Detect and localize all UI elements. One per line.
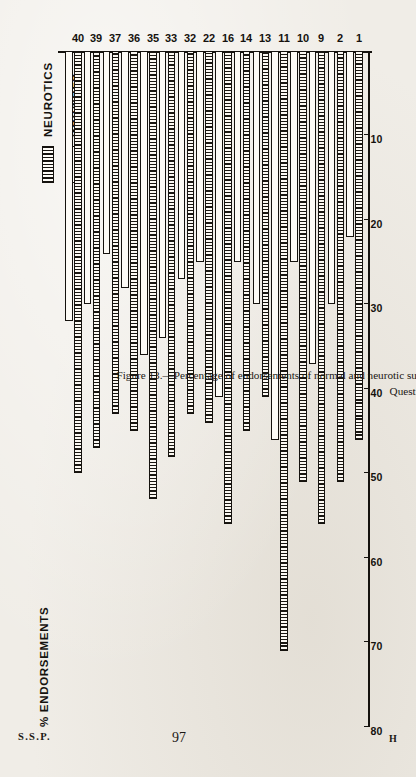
axis-tick — [364, 725, 369, 726]
bar-neurotics — [224, 51, 232, 524]
legend-swatch-neurotics — [42, 146, 54, 183]
bar-normals — [328, 51, 336, 305]
bar-neurotics — [74, 51, 82, 474]
bar-normals — [196, 51, 204, 262]
bar-normals — [140, 51, 148, 355]
axis-tick-label: 50 — [371, 471, 383, 483]
bar-normals — [346, 51, 354, 237]
axis-tick-label: 30 — [371, 302, 383, 314]
bar-neurotics — [280, 51, 288, 651]
category-label: 1 — [350, 32, 368, 44]
bar-neurotics — [112, 51, 120, 414]
running-head: S.S.P. — [18, 731, 51, 742]
bar-normals — [121, 51, 129, 288]
axis-tick-label: 20 — [371, 217, 383, 229]
page-number: 97 — [172, 730, 186, 746]
category-label: 14 — [237, 32, 255, 44]
bar-normals — [309, 51, 317, 364]
bar-neurotics — [262, 51, 270, 397]
bar-normals — [65, 51, 73, 321]
category-label: 10 — [294, 32, 312, 44]
axis-tick-label: 70 — [371, 640, 383, 652]
bar-normals — [290, 51, 298, 262]
figure-plate: % ENDORSEMENTS NEUROTICS NORMALS 1291011… — [20, 39, 396, 739]
axis-tick — [364, 472, 369, 473]
axis-tick — [364, 303, 369, 304]
bar-normals — [234, 51, 242, 262]
axis-title: % ENDORSEMENTS — [38, 606, 50, 726]
category-label: 2 — [331, 32, 349, 44]
bar-neurotics — [299, 51, 307, 482]
category-label: 16 — [219, 32, 237, 44]
category-label: 33 — [162, 32, 180, 44]
category-label: 22 — [200, 32, 218, 44]
axis-tick — [364, 134, 369, 135]
bar-neurotics — [187, 51, 195, 414]
category-label: 40 — [69, 32, 87, 44]
bar-normals — [159, 51, 167, 338]
bar-neurotics — [337, 51, 345, 482]
bar-normals — [178, 51, 186, 279]
category-label: 39 — [87, 32, 105, 44]
bar-normals — [103, 51, 111, 254]
category-label: 35 — [144, 32, 162, 44]
book-page: % ENDORSEMENTS NEUROTICS NORMALS 1291011… — [0, 0, 416, 777]
category-label: 11 — [275, 32, 293, 44]
axis-tick-label: 80 — [371, 724, 383, 736]
category-label: 13 — [256, 32, 274, 44]
axis-tick — [364, 556, 369, 557]
bar-neurotics — [149, 51, 157, 499]
category-label: 37 — [106, 32, 124, 44]
bar-normals — [215, 51, 223, 397]
category-label: 36 — [125, 32, 143, 44]
category-label: 9 — [312, 32, 330, 44]
bar-normals — [84, 51, 92, 305]
figure-caption: Figure 13.—Percentage of endorsements of… — [58, 367, 416, 399]
legend-label-neurotics: NEUROTICS — [42, 62, 54, 137]
axis-tick — [364, 218, 369, 219]
signature-mark: H — [389, 733, 397, 744]
axis-tick — [364, 641, 369, 642]
category-label: 32 — [181, 32, 199, 44]
axis-tick-label: 10 — [371, 133, 383, 145]
bar-normals — [253, 51, 261, 305]
axis-tick-label: 60 — [371, 555, 383, 567]
legend-item-neurotics: NEUROTICS — [42, 62, 54, 183]
bar-neurotics — [318, 51, 326, 524]
